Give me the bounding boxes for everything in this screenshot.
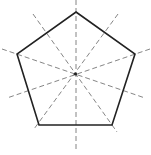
- center-dot: [74, 72, 77, 75]
- pentagon-symmetry-diagram: Regular pentagon with 5 lines of symmetr…: [0, 0, 151, 155]
- pentagon-figure: [0, 0, 151, 155]
- center-point: [74, 72, 77, 75]
- symmetry-axis-3: [34, 14, 118, 129]
